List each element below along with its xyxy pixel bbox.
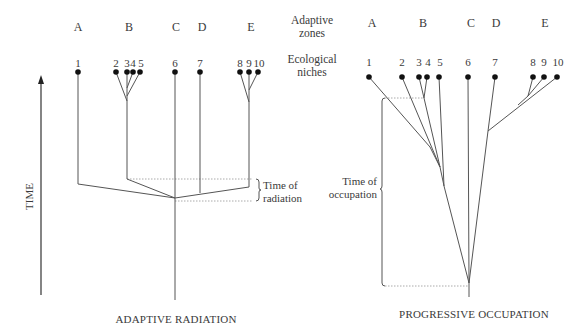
niche-label: 3	[124, 57, 130, 69]
niche-label: 6	[465, 56, 471, 68]
niche-label: 9	[246, 57, 252, 69]
annotation-line: Time of	[321, 175, 377, 188]
niche-label: 2	[399, 56, 405, 68]
annotation-line: radiation	[263, 192, 302, 205]
header-line: niches	[287, 66, 336, 79]
niche-label: 8	[530, 56, 536, 68]
occupation-dashed-box	[385, 98, 469, 286]
niche-label: 5	[138, 57, 144, 69]
time-of-occupation-label: Time of occupation	[321, 175, 377, 201]
adaptive-radiation-caption: ADAPTIVE RADIATION	[115, 313, 236, 325]
time-of-radiation-label: Time of radiation	[263, 179, 302, 205]
niche-label: 9	[541, 56, 547, 68]
radiation-dashed-box	[127, 179, 252, 201]
header-line: Adaptive	[291, 14, 333, 27]
adaptive-radiation-tree	[78, 72, 261, 300]
header-line: zones	[291, 27, 333, 40]
zone-label-d: D	[198, 21, 207, 33]
niche-label: 1	[75, 57, 81, 69]
annotation-line: Time of	[263, 179, 302, 192]
zone-label-e: E	[541, 17, 548, 29]
time-arrow	[38, 75, 44, 295]
niche-label: 6	[172, 57, 178, 69]
niche-label: 3	[416, 56, 422, 68]
adaptive-zones-header: Adaptive zones	[291, 14, 333, 40]
progressive-occupation-caption: PROGRESSIVE OCCUPATION	[399, 308, 549, 320]
niche-label: 7	[492, 56, 498, 68]
progressive-occupation-tree	[369, 77, 557, 297]
zone-label-a: A	[368, 17, 377, 29]
niche-label: 1	[366, 56, 372, 68]
zone-label-c: C	[172, 21, 180, 33]
left-niche-dots	[75, 69, 261, 75]
diagram-canvas	[0, 0, 583, 335]
header-line: Ecological	[287, 53, 336, 66]
radiation-bracket	[256, 179, 261, 201]
zone-label-b: B	[419, 17, 427, 29]
occupation-bracket	[380, 98, 385, 286]
niche-label: 10	[553, 56, 564, 68]
zone-label-d: D	[492, 17, 501, 29]
zone-label-a: A	[74, 21, 83, 33]
niche-label: 4	[130, 57, 136, 69]
niche-label: 8	[237, 57, 243, 69]
ecological-niches-header: Ecological niches	[287, 53, 336, 79]
niche-label: 7	[197, 57, 203, 69]
niche-label: 4	[425, 56, 431, 68]
zone-label-c: C	[467, 17, 475, 29]
niche-label: 2	[113, 57, 119, 69]
zone-label-e: E	[247, 21, 254, 33]
niche-label: 10	[254, 57, 265, 69]
right-niche-dots	[366, 74, 560, 80]
zone-label-b: B	[125, 21, 133, 33]
annotation-line: occupation	[321, 188, 377, 201]
time-axis-label: TIME	[23, 183, 35, 210]
niche-label: 5	[437, 56, 443, 68]
